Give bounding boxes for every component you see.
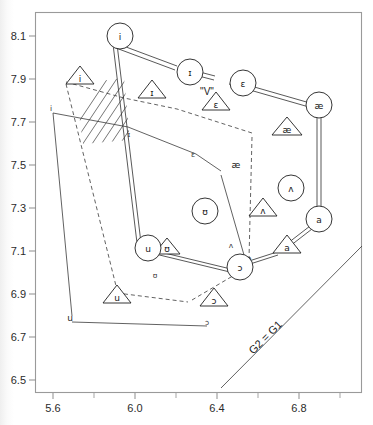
circle-marker-ae: æ <box>306 92 332 118</box>
x-axis-tick-labels: 5.6 6.0 6.4 6.8 <box>45 402 306 414</box>
plain-label-upsilon: ʊ <box>153 271 158 280</box>
triangle-marker-caret: ʌ <box>249 198 277 216</box>
circle-marker-i: i <box>107 23 133 49</box>
circle-label-ae: æ <box>315 101 324 111</box>
circle-marker-group: i ɪ ɛ æ a ɔ u <box>107 23 332 280</box>
plain-label-open-o: ɔ <box>205 318 209 327</box>
vowel-plot-figure: 8.1 7.9 7.7 7.5 7.3 7.1 6.9 6.7 6.5 5.6 … <box>0 0 373 425</box>
triangle-label-i: i <box>79 74 82 84</box>
v-quoted-label: "V" <box>200 86 214 97</box>
triangle-label-upsilon: ʊ <box>164 244 170 254</box>
x-axis-ticks <box>53 393 340 399</box>
plain-label-small-i: ɪ <box>128 130 131 139</box>
circle-marker-small-i: ɪ <box>177 59 203 85</box>
circle-marker-open-o: ɔ <box>227 254 253 280</box>
y-tick-label: 6.5 <box>11 374 26 386</box>
triangle-label-small-i: ɪ <box>150 88 153 98</box>
plain-label-epsilon: ɛ <box>191 150 195 159</box>
triangle-polygon-dashed <box>66 82 252 302</box>
plain-label-ae: æ <box>232 160 241 170</box>
triangle-label-ae: æ <box>283 125 292 135</box>
circle-label-a: a <box>316 215 322 225</box>
triangle-label-open-o: ɔ <box>212 296 217 306</box>
y-tick-label: 6.9 <box>11 288 26 300</box>
x-tick-label: 6.8 <box>291 402 306 414</box>
triangle-marker-a: a <box>273 235 301 253</box>
circle-marker-caret: ʌ <box>278 175 304 201</box>
circle-marker-epsilon: ɛ <box>230 70 256 96</box>
y-tick-label: 6.7 <box>11 331 26 343</box>
plain-label-u: u <box>67 313 73 323</box>
circle-label-i: i <box>119 32 122 42</box>
x-tick-label: 6.0 <box>127 402 142 414</box>
triangle-marker-ae: æ <box>272 117 302 135</box>
x-tick-label: 6.4 <box>209 402 224 414</box>
y-tick-label: 8.1 <box>11 30 26 42</box>
y-tick-label: 7.5 <box>11 159 26 171</box>
plain-label-group: i ɪ ɛ æ a ɔ u ʊ ʌ <box>50 104 252 327</box>
x-tick-label: 5.6 <box>45 402 60 414</box>
triangle-label-caret: ʌ <box>260 206 266 216</box>
circle-label-u: u <box>145 244 151 254</box>
circle-marker-upsilon: ʊ <box>192 198 218 224</box>
circle-marker-a: a <box>306 206 332 232</box>
plain-label-i: i <box>50 104 52 113</box>
y-axis-tick-labels: 8.1 7.9 7.7 7.5 7.3 7.1 6.9 6.7 6.5 <box>11 30 26 386</box>
circle-label-open-o: ɔ <box>238 263 243 273</box>
g2-g1-label: G2 = G1 <box>246 318 284 356</box>
circle-label-small-i: ɪ <box>188 68 191 78</box>
circle-label-upsilon: ʊ <box>202 207 208 217</box>
circle-marker-u: u <box>135 235 161 261</box>
triangle-label-u: u <box>114 293 120 303</box>
circle-label-epsilon: ɛ <box>241 79 246 89</box>
triangle-label-a: a <box>284 243 290 253</box>
circle-label-caret: ʌ <box>288 184 294 194</box>
triangle-marker-small-i: ɪ <box>138 80 166 98</box>
plot-canvas: 8.1 7.9 7.7 7.5 7.3 7.1 6.9 6.7 6.5 5.6 … <box>0 0 373 425</box>
triangle-label-epsilon: ɛ <box>214 100 219 110</box>
triangle-marker-open-o: ɔ <box>200 288 228 306</box>
y-tick-label: 7.9 <box>11 73 26 85</box>
y-tick-label: 7.7 <box>11 116 26 128</box>
triangle-marker-i: i <box>66 66 94 84</box>
y-tick-label: 7.3 <box>11 202 26 214</box>
plain-label-caret: ʌ <box>229 241 234 250</box>
y-tick-label: 7.1 <box>11 245 26 257</box>
